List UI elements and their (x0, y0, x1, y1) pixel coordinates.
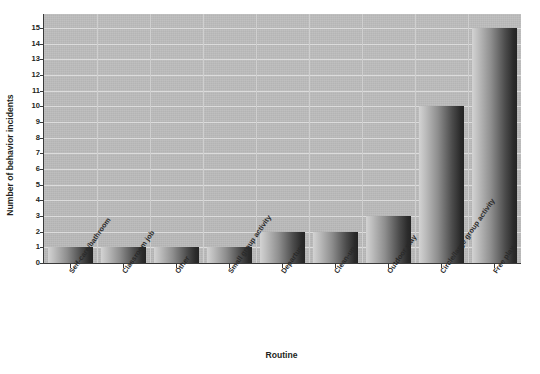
y-tick-label: 7 (20, 149, 40, 157)
bar-chart-figure: Number of behavior incidents 01234567891… (0, 0, 540, 374)
gridline-vertical (415, 14, 416, 263)
y-tick-label: 6 (20, 165, 40, 173)
gridline-horizontal (44, 28, 521, 29)
gridline-vertical (150, 14, 151, 263)
gridline-horizontal (44, 75, 521, 76)
y-tick-label: 8 (20, 134, 40, 142)
y-tick-label: 0 (20, 259, 40, 267)
y-tick-label: 4 (20, 196, 40, 204)
y-tick-label: 9 (20, 118, 40, 126)
gridline-horizontal (44, 44, 521, 45)
y-tick-label: 5 (20, 181, 40, 189)
gridline-vertical (203, 14, 204, 263)
bar (154, 247, 198, 263)
bar (472, 28, 516, 263)
y-tick-label: 1 (20, 243, 40, 251)
y-axis-title-text: Number of behavior incidents (5, 94, 15, 215)
plot-area (43, 14, 521, 264)
gridline-vertical (362, 14, 363, 263)
y-tick-label: 3 (20, 212, 40, 220)
gridline-vertical (309, 14, 310, 263)
gridline-horizontal (44, 91, 521, 92)
y-axis-title: Number of behavior incidents (3, 55, 17, 255)
y-tick-label: 14 (20, 40, 40, 48)
y-tick-label: 13 (20, 55, 40, 63)
gridline-horizontal (44, 59, 521, 60)
bar (419, 106, 463, 263)
y-tick-label: 2 (20, 228, 40, 236)
y-axis-ticks: 0123456789101112131415 (18, 0, 40, 374)
x-axis-title: Routine (43, 350, 520, 360)
y-tick-label: 11 (20, 87, 40, 95)
y-tick-label: 15 (20, 24, 40, 32)
y-tick-label: 10 (20, 102, 40, 110)
y-tick-label: 12 (20, 71, 40, 79)
